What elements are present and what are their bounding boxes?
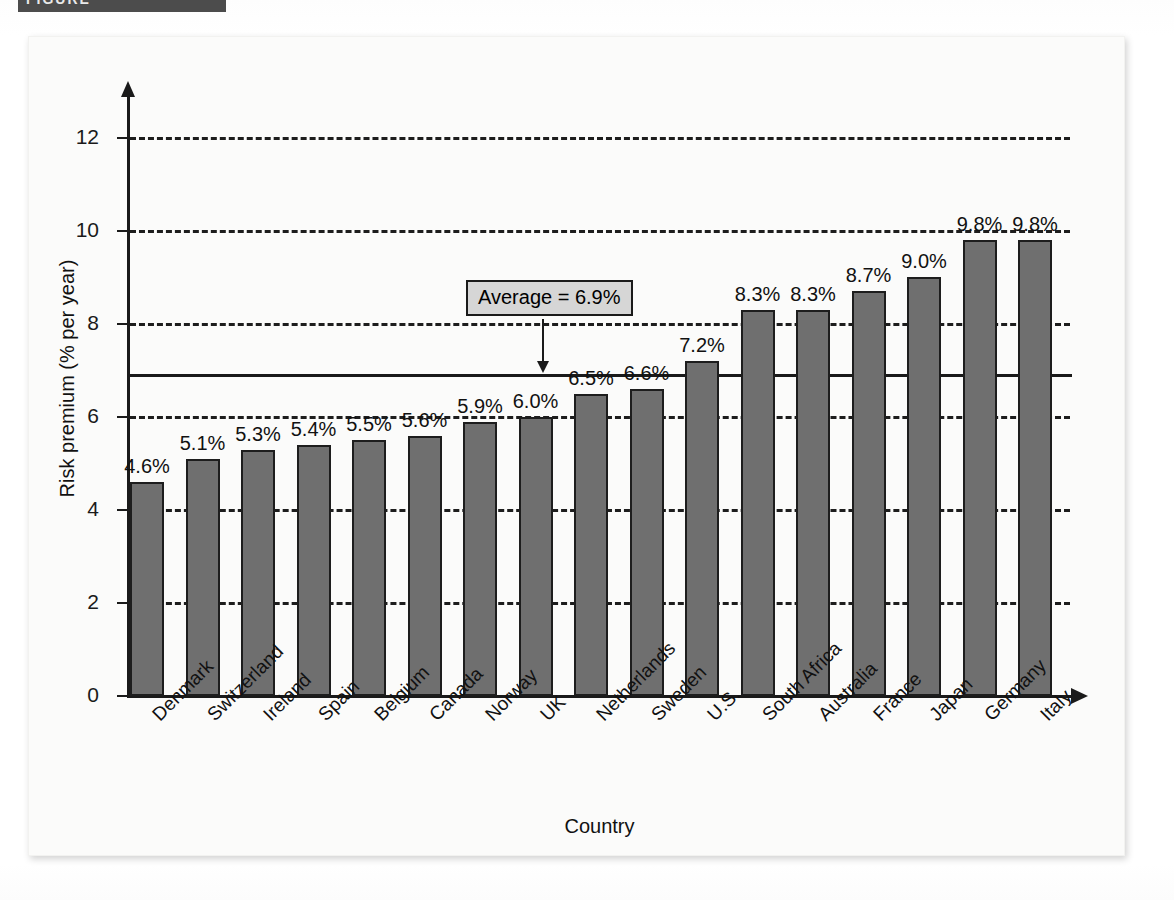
bar-value-label: 7.2%	[669, 334, 735, 357]
gridline-12	[130, 137, 1070, 140]
bar[interactable]	[574, 394, 608, 696]
bar[interactable]	[963, 240, 997, 696]
figure-card: 024681012 Average = 6.9% 4.6%5.1%5.3%5.4…	[28, 36, 1125, 856]
y-axis-arrow-icon	[121, 81, 135, 97]
bar[interactable]	[796, 310, 830, 696]
bar[interactable]	[408, 436, 442, 696]
bar[interactable]	[130, 482, 164, 696]
bar-chart-plot: 024681012 Average = 6.9% 4.6%5.1%5.3%5.4…	[29, 37, 1126, 857]
average-callout-arrow-head	[537, 361, 549, 373]
y-tick-12	[117, 137, 129, 139]
x-axis-title: Country	[127, 815, 1072, 838]
y-tick-10	[117, 230, 129, 232]
y-tick-2	[117, 602, 129, 604]
y-tick-label-12: 12	[59, 125, 99, 149]
bar[interactable]	[1018, 240, 1052, 696]
y-tick-6	[117, 416, 129, 418]
bar-value-label: 9.8%	[1002, 213, 1068, 236]
bar-value-label: 9.0%	[891, 250, 957, 273]
average-callout-arrow-stem	[542, 319, 544, 365]
bar[interactable]	[741, 310, 775, 696]
y-tick-4	[117, 509, 129, 511]
figure-banner: FIGURE	[18, 0, 226, 12]
bar-value-label: 6.0%	[503, 390, 569, 413]
bar[interactable]	[463, 422, 497, 696]
y-tick-0	[117, 695, 129, 697]
bar[interactable]	[519, 417, 553, 696]
bar[interactable]	[907, 277, 941, 696]
figure-banner-label: FIGURE	[26, 0, 91, 7]
y-tick-label-0: 0	[59, 683, 99, 707]
y-tick-label-2: 2	[59, 590, 99, 614]
y-tick-8	[117, 323, 129, 325]
gridline-10	[130, 230, 1070, 233]
bar[interactable]	[685, 361, 719, 696]
average-callout-box: Average = 6.9%	[466, 280, 633, 316]
bar[interactable]	[352, 440, 386, 696]
bar-value-label: 6.6%	[614, 362, 680, 385]
y-axis-title: Risk premium (% per year)	[56, 229, 79, 529]
bar[interactable]	[297, 445, 331, 696]
bar[interactable]	[852, 291, 886, 696]
bar-value-label: 4.6%	[114, 455, 180, 478]
